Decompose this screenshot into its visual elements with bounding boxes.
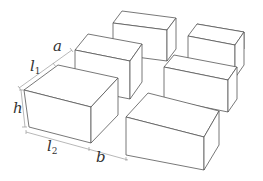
diagram-svg xyxy=(0,0,263,181)
label-a: a xyxy=(53,39,62,54)
box-array-diagram: a l1 h l2 b xyxy=(0,0,263,181)
label-b-text: b xyxy=(96,148,106,166)
label-a-text: a xyxy=(53,37,62,55)
label-b: b xyxy=(96,150,106,165)
label-l1-subscript: 1 xyxy=(35,66,41,76)
label-h-text: h xyxy=(13,99,23,117)
label-l2-subscript: 2 xyxy=(52,146,58,156)
box-front-left xyxy=(24,65,118,143)
label-h: h xyxy=(13,101,23,116)
label-l1: l1 xyxy=(30,59,41,76)
label-l2: l2 xyxy=(47,139,58,156)
